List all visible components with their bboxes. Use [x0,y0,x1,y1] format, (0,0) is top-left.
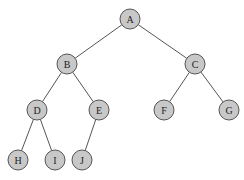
node-i: I [45,150,65,170]
node-label: E [96,105,102,116]
edge-d-i [40,119,51,150]
edge-c-f [170,72,190,101]
node-label: A [126,14,134,25]
node-e: E [89,100,109,120]
node-label: G [225,105,232,116]
tree-nodes: ABCDEFGHIJ [8,9,239,170]
node-d: D [27,100,47,120]
node-a: A [120,9,140,29]
edge-a-c [138,25,187,59]
node-label: I [53,155,56,166]
node-label: H [14,155,21,166]
node-label: B [64,59,71,70]
node-g: G [219,100,239,120]
edge-a-b [75,25,122,58]
edge-d-h [22,119,34,150]
node-j: J [72,150,92,170]
node-label: C [192,59,199,70]
edge-c-g [201,72,223,102]
edge-b-d [42,72,61,101]
tree-edges [22,25,224,151]
node-h: H [8,150,28,170]
binary-tree-diagram: ABCDEFGHIJ [0,0,244,180]
edge-b-e [73,72,94,102]
edge-e-j [85,119,96,150]
node-f: F [154,100,174,120]
node-label: F [161,105,167,116]
node-label: D [33,105,40,116]
node-c: C [185,54,205,74]
node-label: J [80,155,84,166]
node-b: B [57,54,77,74]
